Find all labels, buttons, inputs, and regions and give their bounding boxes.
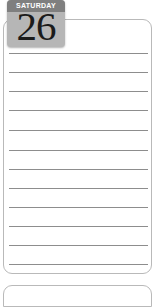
- rule-line: [9, 188, 148, 189]
- rule-line: [9, 150, 148, 151]
- rule-line: [9, 110, 148, 111]
- day-card[interactable]: [3, 19, 152, 274]
- day-number: 26: [7, 6, 65, 47]
- rule-line: [9, 72, 148, 73]
- rule-line: [9, 245, 148, 246]
- rule-line: [9, 130, 148, 131]
- rule-line: [9, 264, 148, 265]
- rule-line: [9, 91, 148, 92]
- date-tile[interactable]: SATURDAY 26: [7, 0, 65, 47]
- rule-line: [9, 207, 148, 208]
- rule-line: [9, 53, 148, 54]
- ruled-note-area[interactable]: [4, 20, 152, 274]
- rule-line: [9, 169, 148, 170]
- next-day-card[interactable]: [3, 285, 152, 307]
- rule-line: [9, 226, 148, 227]
